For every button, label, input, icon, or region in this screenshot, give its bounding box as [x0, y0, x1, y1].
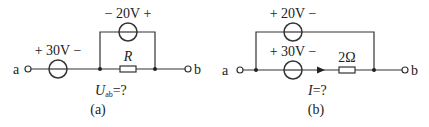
terminal-a-label: a [13, 62, 20, 77]
caption-a: (a) [90, 102, 106, 118]
resistor-r [120, 66, 136, 72]
terminal-b-label-a: b [194, 62, 201, 77]
circuit-a: a + 30V − − 20V + R b Uab=? (a) [13, 6, 201, 118]
source-label-20v-a: − 20V + [105, 6, 152, 21]
circuit-diagrams: a + 30V − − 20V + R b Uab=? (a) a [0, 0, 429, 127]
source-label-30v-a: + 30V − [35, 43, 82, 58]
source-label-20v-b: + 20V − [270, 6, 317, 21]
junction-dot-right-b [372, 68, 376, 72]
terminal-a-label-b: a [222, 63, 229, 78]
junction-dot-left-b [254, 68, 258, 72]
question-i: I=? [307, 83, 327, 98]
circuit-b: a + 20V − + 30V − 2Ω b I=? (b) [222, 6, 418, 118]
terminal-b-node-a [185, 66, 191, 72]
resistor-label-r: R [123, 49, 133, 64]
question-ab-sub: ab [105, 90, 113, 99]
resistor-2ohm [339, 67, 355, 73]
caption-b: (b) [308, 102, 325, 118]
terminal-b-label-b: b [411, 63, 418, 78]
terminal-a-node-b [237, 67, 243, 73]
question-uab: Uab=? [95, 83, 127, 99]
junction-dot-right-a [153, 67, 157, 71]
junction-dot-left-a [98, 67, 102, 71]
resistor-label-2ohm: 2Ω [338, 50, 355, 65]
question-tail-b: =? [313, 83, 327, 98]
current-arrow-icon [317, 67, 325, 74]
terminal-b-node-b [402, 67, 408, 73]
source-label-30v-b: + 30V − [270, 44, 317, 59]
question-tail-a: =? [113, 83, 127, 98]
terminal-a-node [25, 66, 31, 72]
